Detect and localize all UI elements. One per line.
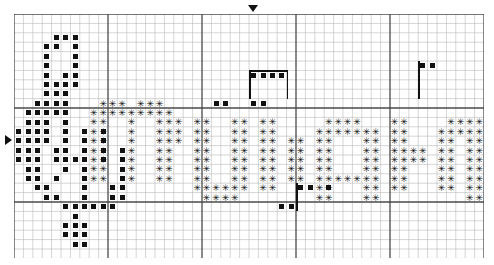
backstitch-right-stem [418, 61, 420, 99]
center-marker-left [5, 135, 12, 145]
backstitch-top-box-left [249, 70, 251, 98]
center-marker-top [248, 5, 258, 12]
backstitch-top-box [249, 70, 287, 72]
pattern-grid[interactable]: ✳✳✳✳✳✳✳✳✳✳✳✳✳✳✳✳✳✳✳✳✳✳✳✳✳✳✳✳✳✳✳✳✳✳✳✳✳✳✳✳… [14, 14, 484, 258]
pattern-chart-page: ✳✳✳✳✳✳✳✳✳✳✳✳✳✳✳✳✳✳✳✳✳✳✳✳✳✳✳✳✳✳✳✳✳✳✳✳✳✳✳✳… [0, 0, 494, 265]
backstitch-layer [14, 14, 484, 258]
backstitch-lower-stem [296, 183, 298, 211]
backstitch-top-box-right [287, 70, 289, 98]
